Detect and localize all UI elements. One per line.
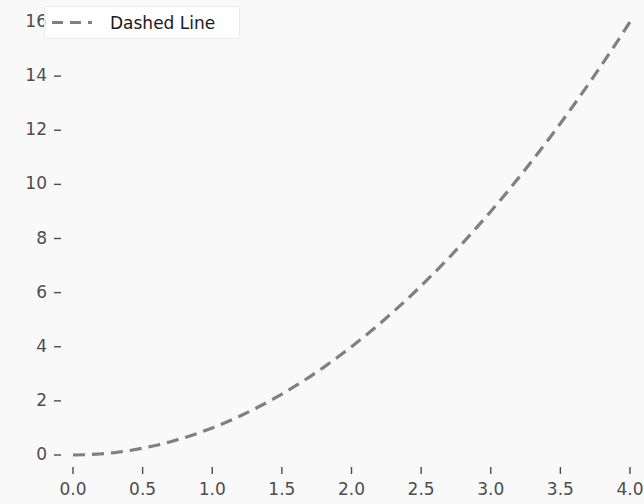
data-series-dashed-line <box>73 22 630 455</box>
y-tick-label: 12 <box>0 121 47 138</box>
legend: Dashed Line <box>44 6 240 39</box>
plot-canvas <box>0 0 644 504</box>
x-tick-label: 3.0 <box>461 481 521 498</box>
y-tick-label: 16 <box>0 13 47 30</box>
y-tick-label: 14 <box>0 67 47 84</box>
x-tick-label: 2.5 <box>391 481 451 498</box>
legend-entry: Dashed Line <box>45 7 239 38</box>
chart-figure: 0246810121416 0.00.51.01.52.02.53.03.54.… <box>0 0 644 504</box>
x-tick-label: 1.5 <box>252 481 312 498</box>
y-tick-label: 8 <box>0 230 47 247</box>
y-tick-label: 2 <box>0 392 47 409</box>
legend-label: Dashed Line <box>110 13 215 33</box>
y-tick-label: 0 <box>0 446 47 463</box>
x-axis-ticks <box>73 467 630 474</box>
y-tick-label: 6 <box>0 284 47 301</box>
x-tick-label: 1.0 <box>182 481 242 498</box>
legend-line-swatch-icon <box>52 21 92 24</box>
y-axis-ticks <box>54 22 61 455</box>
x-tick-label: 0.5 <box>113 481 173 498</box>
x-tick-label: 3.5 <box>530 481 590 498</box>
y-tick-label: 10 <box>0 175 47 192</box>
x-tick-label: 2.0 <box>322 481 382 498</box>
y-tick-label: 4 <box>0 338 47 355</box>
x-tick-label: 4.0 <box>600 481 644 498</box>
x-tick-label: 0.0 <box>43 481 103 498</box>
